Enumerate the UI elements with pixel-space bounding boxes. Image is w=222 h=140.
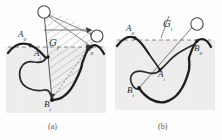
- caption-panel-a: (a): [48, 122, 57, 131]
- shaded-halfplane-b: [115, 40, 215, 110]
- caption-panel-b: (b): [158, 122, 167, 131]
- panel-b-drawing: [111, 0, 222, 120]
- node-circle-right-a: [91, 30, 103, 42]
- figure-container: A0 Ai B0 Bi Gi (a): [0, 0, 222, 140]
- panel-a: A0 Ai B0 Bi Gi (a): [0, 0, 111, 140]
- panel-a-drawing: [0, 0, 111, 120]
- node-circle-top-a: [38, 6, 50, 18]
- panel-b: A0 Ai B0 Bi Gi (b): [111, 0, 222, 140]
- node-circle-right-b: [191, 18, 203, 30]
